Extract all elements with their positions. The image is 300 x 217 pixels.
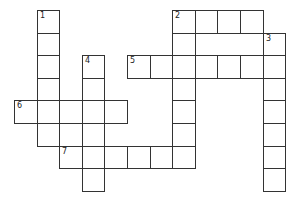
crossword-cell[interactable] bbox=[82, 168, 105, 192]
crossword-cell[interactable] bbox=[172, 55, 196, 79]
crossword-cell[interactable] bbox=[104, 100, 128, 124]
crossword-cell[interactable] bbox=[172, 78, 196, 101]
crossword-cell[interactable] bbox=[37, 55, 60, 79]
crossword-cell[interactable] bbox=[240, 10, 264, 34]
crossword-cell[interactable] bbox=[82, 123, 105, 147]
clue-number: 3 bbox=[266, 34, 271, 43]
crossword-cell[interactable] bbox=[217, 10, 241, 34]
crossword-cell[interactable] bbox=[150, 55, 173, 79]
crossword-cell[interactable] bbox=[59, 123, 83, 147]
crossword-cell[interactable] bbox=[217, 55, 241, 79]
crossword-cell[interactable] bbox=[263, 100, 286, 124]
clue-number: 7 bbox=[62, 147, 67, 156]
crossword-cell[interactable] bbox=[172, 123, 196, 147]
crossword-cell[interactable]: 3 bbox=[263, 33, 286, 56]
crossword-cell[interactable]: 4 bbox=[82, 55, 105, 79]
clue-number: 6 bbox=[17, 101, 22, 110]
crossword-cell[interactable] bbox=[37, 33, 60, 56]
crossword-grid: 1234567 bbox=[0, 0, 300, 217]
crossword-cell[interactable] bbox=[104, 146, 128, 169]
crossword-cell[interactable] bbox=[37, 78, 60, 101]
crossword-cell[interactable] bbox=[82, 78, 105, 101]
clue-number: 4 bbox=[85, 56, 90, 65]
clue-number: 5 bbox=[130, 56, 135, 65]
crossword-cell[interactable] bbox=[82, 146, 105, 169]
crossword-cell[interactable]: 7 bbox=[59, 146, 83, 169]
crossword-cell[interactable]: 5 bbox=[127, 55, 151, 79]
clue-number: 1 bbox=[40, 11, 45, 20]
crossword-cell[interactable] bbox=[172, 146, 196, 169]
clue-number: 2 bbox=[175, 11, 180, 20]
crossword-cell[interactable] bbox=[263, 78, 286, 101]
crossword-cell[interactable] bbox=[263, 146, 286, 169]
crossword-cell[interactable] bbox=[195, 55, 218, 79]
crossword-cell[interactable] bbox=[37, 123, 60, 147]
crossword-cell[interactable] bbox=[263, 123, 286, 147]
crossword-cell[interactable] bbox=[172, 100, 196, 124]
crossword-cell[interactable] bbox=[127, 146, 151, 169]
crossword-cell[interactable] bbox=[82, 100, 105, 124]
crossword-cell[interactable] bbox=[150, 146, 173, 169]
crossword-cell[interactable]: 6 bbox=[14, 100, 38, 124]
crossword-cell[interactable]: 2 bbox=[172, 10, 196, 34]
crossword-cell[interactable] bbox=[263, 55, 286, 79]
crossword-cell[interactable] bbox=[172, 33, 196, 56]
crossword-cell[interactable]: 1 bbox=[37, 10, 60, 34]
crossword-cell[interactable] bbox=[263, 168, 286, 192]
crossword-cell[interactable] bbox=[240, 55, 264, 79]
crossword-cell[interactable] bbox=[37, 100, 60, 124]
crossword-cell[interactable] bbox=[195, 10, 218, 34]
crossword-cell[interactable] bbox=[59, 100, 83, 124]
